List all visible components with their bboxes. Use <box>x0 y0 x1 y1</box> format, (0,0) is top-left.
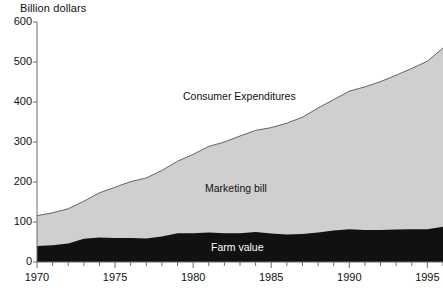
y-tick-label: 600 <box>2 15 32 27</box>
x-tick-label: 1995 <box>407 271 443 283</box>
x-tick-label: 1980 <box>173 271 213 283</box>
series-label-farm-value: Farm value <box>211 241 264 253</box>
x-tick-label: 1975 <box>95 271 135 283</box>
y-tick-label: 100 <box>2 215 32 227</box>
y-tick-label: 300 <box>2 135 32 147</box>
stacked-area-chart: Billion dollars 6005004003002001000 1970… <box>0 0 443 293</box>
area-series-group <box>37 48 443 262</box>
area-marketing-bill <box>37 48 443 262</box>
y-tick-label: 500 <box>2 55 32 67</box>
y-tick-label: 400 <box>2 95 32 107</box>
y-tick-label: 0 <box>2 255 32 267</box>
y-tick-label: 200 <box>2 175 32 187</box>
series-label-consumer-expenditures: Consumer Expenditures <box>183 90 296 102</box>
series-label-marketing-bill: Marketing bill <box>205 182 267 194</box>
x-tick-label: 1985 <box>251 271 291 283</box>
x-tick-label: 1970 <box>17 271 57 283</box>
x-tick-label: 1990 <box>329 271 369 283</box>
